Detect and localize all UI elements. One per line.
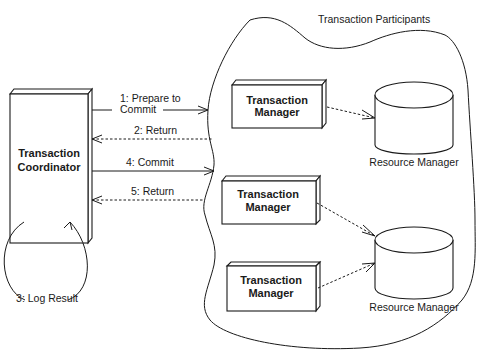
transaction-coordinator: Transaction Coordinator [10,89,92,243]
transaction-manager-1: Transaction Manager [232,80,326,128]
svg-text:Resource Manager: Resource Manager [369,156,459,168]
svg-text:3: Log Result: 3: Log Result [16,292,78,304]
svg-text:Manager: Manager [248,287,294,299]
svg-text:2: Return: 2: Return [134,124,177,136]
svg-text:Manager: Manager [254,106,300,118]
svg-text:Resource Manager: Resource Manager [369,301,459,313]
message-prepare-to-commit: 1: Prepare to Commit [92,92,208,115]
transaction-manager-3: Transaction Manager [227,262,320,311]
svg-text:Transaction: Transaction [246,94,308,106]
svg-text:Commit: Commit [120,103,156,115]
message-return-2: 5: Return [92,185,204,204]
svg-text:Transaction: Transaction [240,274,302,286]
dependency-tm3-rm2 [318,263,375,288]
message-return-1: 2: Return [92,124,213,143]
resource-manager-2: Resource Manager [369,227,459,313]
svg-text:Coordinator: Coordinator [18,161,82,173]
svg-text:5: Return: 5: Return [131,185,174,197]
transaction-manager-2: Transaction Manager [222,176,320,224]
svg-text:Manager: Manager [245,201,291,213]
message-commit: 4: Commit [92,156,214,175]
dependency-tm2-rm2 [317,203,375,236]
resource-manager-1: Resource Manager [369,82,459,168]
svg-text:Transaction: Transaction [237,188,299,200]
two-phase-commit-diagram: Transaction Participants Transaction Coo… [0,0,486,361]
svg-text:4: Commit: 4: Commit [126,156,174,168]
participants-region-label: Transaction Participants [318,13,430,25]
dependency-tm1-rm1 [327,107,375,119]
svg-text:Transaction: Transaction [18,147,80,159]
